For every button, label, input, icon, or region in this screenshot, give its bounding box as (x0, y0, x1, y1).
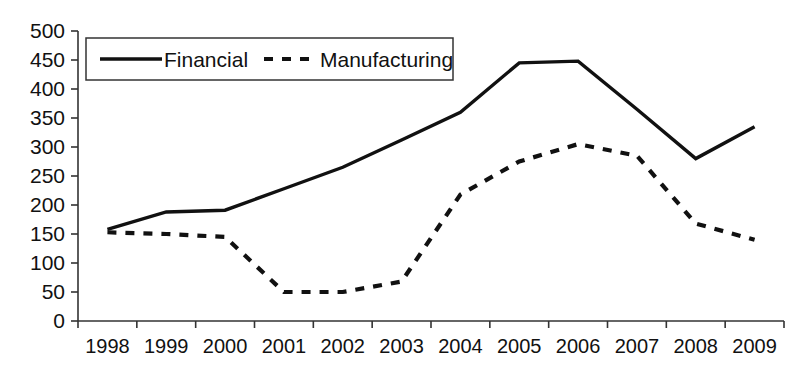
x-tick-label: 2006 (556, 335, 601, 357)
legend-label-financial: Financial (164, 48, 248, 71)
line-chart: 050100150200250300350400450500 199819992… (0, 0, 790, 384)
y-tick-label: 0 (53, 309, 65, 332)
y-tick-label: 350 (30, 106, 65, 129)
x-tick-label: 2000 (203, 335, 248, 357)
x-tick-label: 1998 (85, 335, 130, 357)
y-tick-label: 200 (30, 193, 65, 216)
y-tick-label: 450 (30, 48, 65, 71)
y-tick-label: 150 (30, 222, 65, 245)
x-tick-label: 2003 (379, 335, 424, 357)
x-tick-label: 2005 (497, 335, 542, 357)
y-axis: 050100150200250300350400450500 (30, 19, 78, 332)
x-tick-label: 2001 (262, 335, 307, 357)
x-tick-label: 2009 (732, 335, 777, 357)
x-tick-label: 1999 (144, 335, 189, 357)
x-tick-label: 2007 (615, 335, 660, 357)
x-tick-label: 2008 (674, 335, 719, 357)
series-line-manufacturing (107, 144, 754, 292)
chart-canvas: 050100150200250300350400450500 199819992… (0, 0, 790, 384)
y-tick-label: 300 (30, 135, 65, 158)
x-tick-label: 2004 (438, 335, 483, 357)
x-axis: 1998199920002001200220032004200520062007… (78, 321, 784, 357)
x-tick-label: 2002 (321, 335, 366, 357)
y-tick-label: 400 (30, 77, 65, 100)
y-tick-label: 50 (42, 280, 65, 303)
y-tick-label: 100 (30, 251, 65, 274)
y-tick-label: 250 (30, 164, 65, 187)
y-tick-label: 500 (30, 19, 65, 42)
chart-legend: FinancialManufacturing (86, 38, 453, 80)
legend-label-manufacturing: Manufacturing (320, 48, 453, 71)
series-line-financial (107, 61, 754, 229)
data-series-group (107, 61, 754, 292)
